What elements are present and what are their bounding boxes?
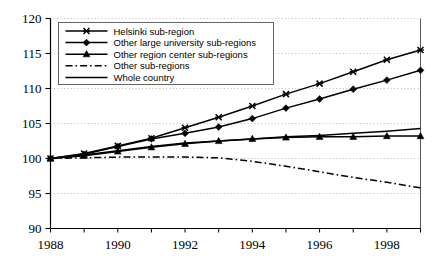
chart-canvas: 9095100105110115120 19881990199219941996… (0, 0, 437, 266)
legend-label-4: Whole country (114, 72, 175, 83)
legend-label-0: Helsinki sub-region (114, 26, 195, 37)
x-tick-label-1998: 1998 (374, 237, 400, 252)
x-tick-label-1994: 1994 (239, 237, 266, 252)
y-tick-label-95: 95 (29, 186, 42, 201)
y-tick-label-115: 115 (22, 46, 41, 61)
x-tick-label-1992: 1992 (172, 237, 198, 252)
y-tick-label-120: 120 (22, 11, 42, 26)
legend-label-1: Other large university sub-regions (114, 37, 257, 48)
line-chart: 9095100105110115120 19881990199219941996… (0, 0, 437, 266)
legend-label-2: Other region center sub-regions (114, 49, 248, 60)
x-tick-label-1990: 1990 (105, 237, 131, 252)
y-tick-label-100: 100 (22, 151, 42, 166)
x-tick-label-1988: 1988 (38, 237, 64, 252)
y-tick-label-110: 110 (22, 81, 41, 96)
legend: Helsinki sub-regionOther large universit… (59, 23, 274, 85)
y-tick-label-105: 105 (22, 116, 42, 131)
y-tick-label-90: 90 (29, 221, 42, 236)
legend-label-3: Other sub-regions (114, 60, 190, 71)
x-tick-label-1996: 1996 (307, 237, 334, 252)
